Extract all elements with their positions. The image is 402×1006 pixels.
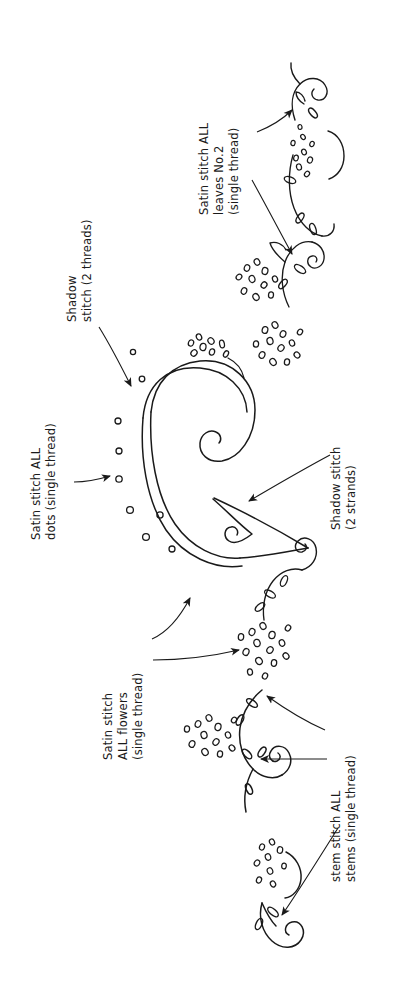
label-line: stems (single thread) [344, 755, 358, 882]
label-line: ALL flowers [116, 692, 130, 760]
label-line: dots (single thread) [44, 423, 58, 540]
pattern-sheet: Satin stitch ALL dots (single thread) Sh… [0, 0, 402, 1006]
label-line: stitch (2 threads) [80, 219, 94, 322]
label-line: Satin stitch ALL [197, 122, 211, 215]
label-line: Shadow [65, 275, 79, 322]
label-line: (2 strands) [344, 465, 358, 530]
label-line: Satin stitch [101, 693, 115, 760]
label-line: Satin stitch ALL [29, 447, 43, 540]
label-line: leaves No.2 [212, 146, 226, 215]
label-line: Shadow stitch [329, 447, 343, 530]
label-line: (single thread) [131, 673, 145, 760]
label-line: stem stitch ALL [329, 790, 343, 882]
embroidery-pattern-artwork: Satin stitch ALL dots (single thread) Sh… [0, 0, 402, 1006]
label-line: (single thread) [227, 128, 241, 215]
